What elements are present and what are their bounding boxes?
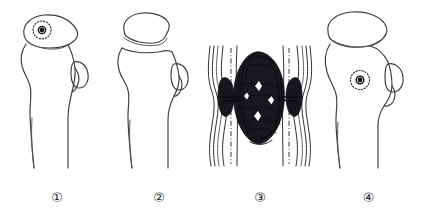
figure-panel-1: ① [2, 0, 112, 223]
panel-1-caption: ① [2, 188, 112, 208]
panel-1-artwork [2, 0, 112, 188]
lateral-cortex-1 [68, 45, 75, 168]
panel-4-caption: ④ [312, 188, 425, 208]
lesion-dark-core-1 [40, 28, 45, 33]
greater-trochanter-ellipse-1 [71, 62, 88, 88]
greater-trochanter-ellipse-4 [385, 64, 403, 92]
panel-4-artwork [312, 0, 425, 188]
femoral-head-outline-4 [328, 12, 387, 47]
head-neck-junction-4 [329, 35, 385, 47]
neck-superior-border-2 [122, 48, 172, 53]
left-spicule-secondary-3 [224, 100, 242, 101]
panel-3-caption: ③ [196, 188, 324, 208]
neck-superior-contour-4 [370, 46, 388, 62]
collapsed-head-fragment-2 [124, 13, 170, 43]
panel-3-artwork [196, 0, 324, 188]
right-spicule-secondary-3 [278, 100, 296, 101]
figure-board: ① ② [0, 0, 427, 223]
figure-panel-3: ③ [196, 0, 324, 223]
lateral-cortex-2 [168, 52, 179, 168]
lesion-dark-core-4 [358, 78, 363, 83]
figure-panel-4: ④ [312, 0, 425, 223]
